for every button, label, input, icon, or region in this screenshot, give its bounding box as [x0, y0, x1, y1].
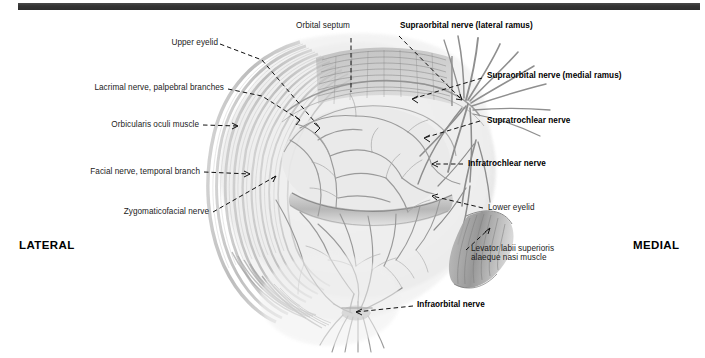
label-facial-nerve-temporal: Facial nerve, temporal branch [12, 167, 200, 177]
label-lower-eyelid: Lower eyelid [488, 203, 535, 213]
label-supraorbital-medial-ramus: Supraorbital nerve (medial ramus) [487, 71, 622, 81]
periorbital-nerve-illustration [0, 0, 705, 358]
label-supratrochlear-nerve: Supratrochlear nerve [487, 116, 570, 126]
orientation-medial: MEDIAL [633, 239, 679, 251]
cheek-shading [260, 254, 400, 346]
label-lacrimal-nerve: Lacrimal nerve, palpebral branches [22, 83, 224, 93]
label-infraorbital-nerve: Infraorbital nerve [417, 300, 485, 310]
label-upper-eyelid: Upper eyelid [62, 38, 218, 48]
label-infratrochlear-nerve: Infratrochlear nerve [468, 159, 546, 169]
label-levator-labii-line2: alaeque nasi muscle [471, 253, 547, 263]
orientation-lateral: LATERAL [19, 239, 75, 251]
label-supraorbital-lateral-ramus: Supraorbital nerve (lateral ramus) [400, 21, 533, 31]
label-orbicularis-oculi: Orbicularis oculi muscle [18, 120, 199, 130]
label-orbital-septum: Orbital septum [296, 21, 350, 31]
label-zygomaticofacial-nerve: Zygomaticofacial nerve [55, 207, 209, 217]
anatomy-figure: Upper eyelid Lacrimal nerve, palpebral b… [0, 0, 705, 358]
